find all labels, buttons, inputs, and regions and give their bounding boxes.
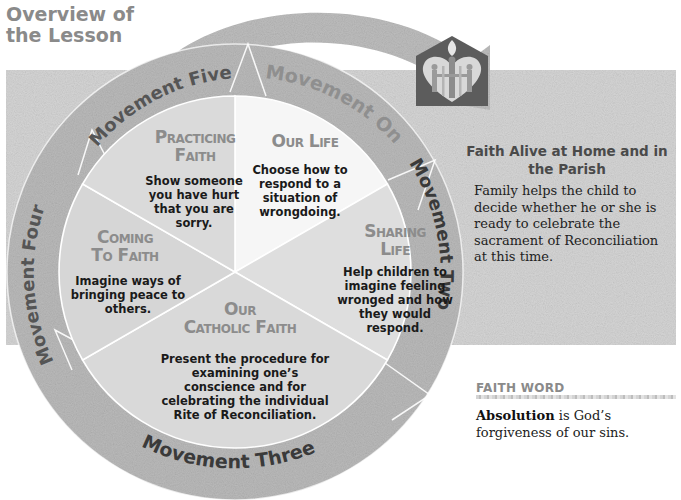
faith-word-divider	[476, 395, 676, 399]
segment-body-practicing-faith: Show someone you have hurt that you are …	[138, 174, 250, 230]
segment-body-sharing-life: Help children to imagine feeling wronged…	[335, 265, 455, 335]
segment-title-practicing-faith: Practicing Faith	[135, 128, 255, 164]
segment-body-our-catholic-faith: Present the procedure for examining one’…	[160, 352, 330, 422]
segment-body-coming-to-faith: Imagine ways of bringing peace to others…	[68, 274, 188, 316]
segment-title-sharing-life: Sharing Life	[345, 222, 445, 258]
faith-word-definition: Absolution is God’s forgiveness of our s…	[476, 408, 676, 441]
segment-title-our-life: Our Life	[245, 132, 365, 150]
segment-title-coming-to-faith: Coming To Faith	[70, 228, 180, 264]
faith-word-heading: FAITH WORD	[476, 381, 565, 395]
segment-body-our-life: Choose how to respond to a situation of …	[245, 163, 355, 219]
faith-alive-body: Family helps the child to decide whether…	[474, 183, 674, 266]
faith-alive-title: Faith Alive at Home and in the Parish	[462, 142, 672, 178]
faith-word-term: Absolution	[476, 408, 555, 423]
